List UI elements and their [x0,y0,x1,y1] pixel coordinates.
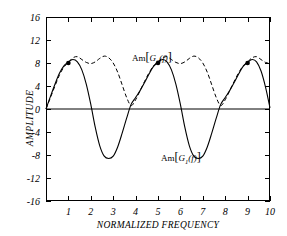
am-text-1: Am [161,153,175,163]
y-tick-label: 8 [14,58,40,69]
peak-marker [66,61,71,66]
y-tick-label: 12 [14,35,40,46]
x-tick-label: 8 [223,206,228,217]
x-tick-label: 7 [200,206,205,217]
annotation-am-g2: Am[G2(f)] [132,50,172,65]
y-tick-label: -12 [14,173,40,184]
bracket-close-2: ] [168,50,172,64]
x-tick-label: 9 [245,206,250,217]
annotation-am-g1: Am[G1(f)] [161,150,201,165]
g-arg-2: (f) [159,53,168,63]
y-tick-label: 16 [14,12,40,23]
x-tick-label: 5 [156,206,161,217]
y-tick [46,201,51,202]
x-tick-top [270,17,271,22]
y-tick-label: 0 [14,104,40,115]
figure: AMPLITUDE NORMALIZED FREQUENCY 1612840-4… [0,0,287,236]
y-tick-right [265,201,270,202]
curves-layer [46,17,270,201]
x-tick-label: 3 [111,206,116,217]
bracket-close-1: ] [197,150,201,164]
y-tick-label: -16 [14,196,40,207]
x-tick-label: 4 [133,206,138,217]
x-tick-label: 6 [178,206,183,217]
plot-area: 1612840-4-8-12-16 12345678910 Am[G2(f)] … [46,17,270,201]
g-arg-1: (f) [188,153,197,163]
x-axis-title: NORMALIZED FREQUENCY [46,220,270,230]
x-tick-label: 10 [265,206,275,217]
y-tick-label: -8 [14,150,40,161]
peak-marker [245,61,250,66]
am-text-2: Am [132,53,146,63]
x-tick [270,196,271,201]
x-tick-label: 2 [88,206,93,217]
y-tick-label: -4 [14,127,40,138]
x-tick-label: 1 [66,206,71,217]
y-tick-label: 4 [14,81,40,92]
y-axis-title: AMPLITUDE [25,90,35,146]
